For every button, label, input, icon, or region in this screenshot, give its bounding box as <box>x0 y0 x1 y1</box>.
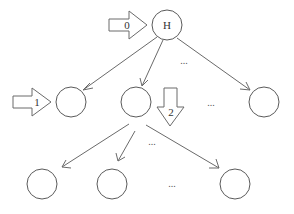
edges-root-to-level1 <box>83 37 250 90</box>
ellipsis-1: ... <box>180 55 188 66</box>
ellipsis-3: ... <box>148 136 156 147</box>
ellipsis-markers: ... ... ... ... <box>148 55 215 189</box>
edge-l1b-l2-b <box>118 131 135 161</box>
step-arrow-2: 2 <box>157 88 184 126</box>
node-l1-c <box>249 87 279 117</box>
node-l2-b <box>97 169 127 199</box>
node-l2-c <box>220 169 250 199</box>
step-arrow-0: 0 <box>109 11 147 39</box>
right-block-arrow-icon <box>13 88 51 116</box>
ellipsis-2: ... <box>207 97 215 108</box>
node-l2-a <box>27 169 57 199</box>
node-root: H <box>152 10 182 40</box>
step-0-label: 0 <box>124 19 130 31</box>
root-label: H <box>163 19 171 31</box>
step-2-label: 2 <box>168 106 174 118</box>
node-l1-b <box>121 87 151 117</box>
step-arrow-1: 1 <box>13 88 51 116</box>
level2-nodes <box>27 169 250 199</box>
edge-root-l1-c <box>177 38 250 90</box>
edge-l1b-l2-c <box>146 125 219 168</box>
edges-l1b-to-level2 <box>62 124 219 168</box>
step-1-label: 1 <box>34 96 40 108</box>
tree-diagram: H ... ... ... ... 0 1 2 <box>0 0 294 214</box>
ellipsis-4: ... <box>168 178 176 189</box>
edge-root-l1-b <box>142 40 163 86</box>
node-l1-a <box>56 87 86 117</box>
